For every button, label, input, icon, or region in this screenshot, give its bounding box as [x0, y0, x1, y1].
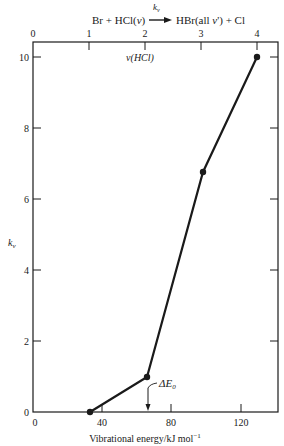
- data-point: [254, 54, 260, 60]
- top-tick-label: 0: [31, 28, 36, 39]
- x-tick-label: 120: [234, 417, 249, 428]
- top-axis-title: v(HCl): [126, 52, 154, 64]
- data-point: [200, 169, 206, 175]
- data-point: [87, 409, 93, 415]
- y-tick-label: 4: [24, 265, 29, 276]
- delta-e0-label: ΔE0: [158, 377, 176, 391]
- y-tick-label: 0: [24, 407, 29, 418]
- y-axis-ticks: [33, 57, 278, 341]
- top-axis-labels: 0 1 2 3 4: [31, 28, 260, 39]
- rate-constant-label: kv: [153, 2, 160, 13]
- x-tick-label: 80: [166, 417, 176, 428]
- top-tick-label: 1: [87, 28, 92, 39]
- plot-frame: [33, 42, 278, 412]
- delta-e0-annotation: ΔE0: [146, 377, 177, 411]
- top-tick-label: 3: [199, 28, 204, 39]
- reaction-left: Br + HCl(v): [92, 14, 146, 27]
- top-tick-label: 4: [255, 28, 260, 39]
- y-axis-title: kv: [8, 237, 16, 250]
- x-axis-title: Vibrational energy/kJ mol−1: [89, 432, 201, 444]
- top-axis-ticks: [89, 42, 257, 50]
- y-tick-label: 8: [24, 123, 29, 134]
- x-axis-ticks: [102, 404, 241, 412]
- y-tick-label: 2: [24, 336, 29, 347]
- data-point: [144, 374, 150, 380]
- y-tick-label: 6: [24, 194, 29, 205]
- reaction-title: Br + HCl(v) kv HBr(all v') + Cl: [92, 2, 245, 27]
- x-tick-label: 0: [33, 417, 38, 428]
- top-tick-label: 2: [143, 28, 148, 39]
- reaction-right: HBr(all v') + Cl: [176, 14, 245, 27]
- x-axis-labels: 0 40 80 120: [33, 417, 249, 428]
- reaction-arrow-icon: [149, 17, 172, 23]
- x-tick-label: 40: [97, 417, 107, 428]
- data-line: [90, 57, 257, 412]
- y-axis-labels: 0 2 4 6 8 10: [19, 52, 29, 418]
- chart: Br + HCl(v) kv HBr(all v') + Cl 0 1 2 3 …: [0, 0, 284, 446]
- y-tick-label: 10: [19, 52, 29, 63]
